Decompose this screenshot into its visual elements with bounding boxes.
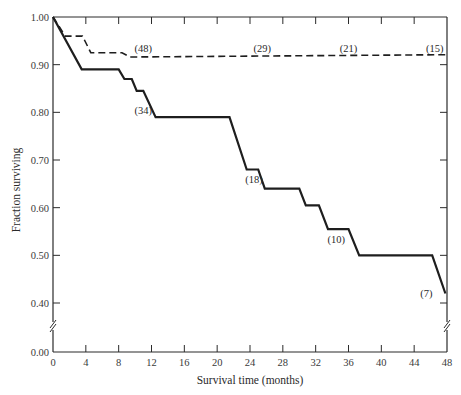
x-tick-label: 36: [343, 357, 354, 368]
survival-chart: 1.000.900.800.700.600.500.400.00 0481216…: [0, 0, 461, 395]
y-tick-label: 0.50: [31, 250, 49, 261]
y-tick-label: 0.60: [31, 203, 49, 214]
y-tick-label: 0.90: [31, 60, 49, 71]
y-tick-label: 0.80: [31, 107, 49, 118]
at-risk-label: (29): [254, 43, 272, 55]
at-risk-label: (48): [135, 43, 153, 55]
solid-survival-curve: [53, 17, 445, 294]
at-risk-label: (34): [135, 105, 153, 117]
x-tick-label: 40: [376, 357, 387, 368]
x-tick-label: 16: [179, 357, 190, 368]
x-tick-label: 12: [146, 357, 157, 368]
x-tick-label: 20: [212, 357, 223, 368]
x-tick-label: 28: [278, 357, 289, 368]
y-tick-label: 1.00: [31, 12, 49, 23]
y-axis-title: Fraction surviving: [10, 147, 23, 232]
y-tick-label: 0.70: [31, 155, 49, 166]
x-tick-label: 44: [409, 357, 420, 368]
x-tick-label: 8: [116, 357, 121, 368]
x-tick-label: 48: [442, 357, 453, 368]
survival-curves: [53, 17, 447, 294]
y-tick-label: 0.00: [31, 347, 49, 358]
at-risk-label: (21): [340, 43, 358, 55]
x-tick-label: 24: [245, 357, 256, 368]
x-tick-label: 0: [50, 357, 55, 368]
at-risk-label: (15): [426, 43, 444, 55]
y-tick-label: 0.40: [31, 298, 49, 309]
at-risk-label: (7): [420, 288, 433, 300]
x-tick-label: 4: [83, 357, 89, 368]
x-tick-label: 32: [310, 357, 321, 368]
at-risk-annotations: (48)(29)(21)(15)(34)(18)(10)(7): [135, 43, 444, 300]
at-risk-label: (18): [245, 174, 263, 186]
at-risk-label: (10): [327, 234, 345, 246]
x-axis-title: Survival time (months): [197, 374, 304, 387]
y-axis-ticks: 1.000.900.800.700.600.500.400.00: [31, 12, 447, 358]
